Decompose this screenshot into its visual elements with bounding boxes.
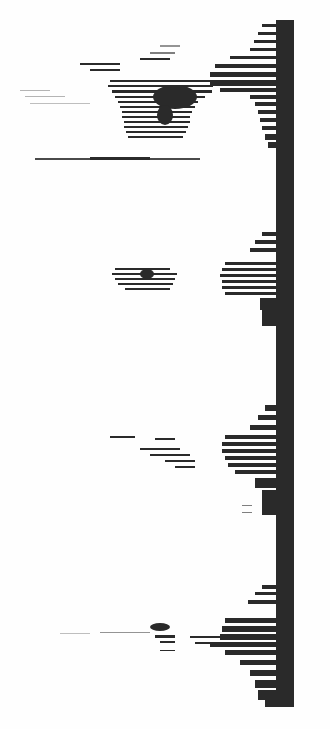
cluster-2 [112,232,278,326]
spectrogram-image [0,0,330,729]
baseline-bar [276,20,294,707]
spectrogram-graphic [0,0,330,729]
cluster-4 [60,585,278,707]
cluster-1 [20,24,278,160]
cluster-3 [110,405,278,515]
